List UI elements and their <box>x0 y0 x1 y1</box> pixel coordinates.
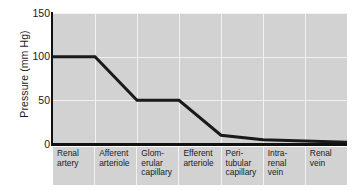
plot-area <box>53 13 347 144</box>
x-axis-category-label-line: vein <box>268 168 305 178</box>
y-tick-label: 100 <box>24 51 50 62</box>
x-axis-category-label-line: arteriole <box>99 159 136 169</box>
x-axis-category-cell: Efferentarteriole <box>179 147 221 185</box>
x-axis-category-cell: Afferentarteriole <box>95 147 137 185</box>
pressure-line <box>53 57 347 143</box>
x-axis-category-label-line: arteriole <box>183 159 220 169</box>
x-axis-category-cell: Intra-renalvein <box>264 147 306 185</box>
x-axis-category-label-line: vein <box>310 159 347 169</box>
x-axis-category-cell: Renalvein <box>306 147 347 185</box>
x-axis-category-cell: Peri-tubularcapillary <box>222 147 264 185</box>
pressure-profile-chart: Pressure (mm Hg) 150100500 RenalarteryAf… <box>0 0 358 195</box>
x-axis-category-label-line: capillary <box>226 168 263 178</box>
x-axis-category-labels: RenalarteryAfferentarterioleGlom-erularc… <box>53 147 347 185</box>
x-axis-category-cell: Renalartery <box>53 147 95 185</box>
data-series-line <box>53 13 347 144</box>
y-axis-tick-labels: 150100500 <box>22 0 50 195</box>
x-axis-category-cell: Glom-erularcapillary <box>137 147 179 185</box>
x-axis-category-label-line: artery <box>57 159 94 169</box>
x-axis-category-label-line: capillary <box>141 168 178 178</box>
x-axis-line <box>51 143 347 146</box>
y-tick-label: 50 <box>24 95 50 106</box>
y-tick-label: 150 <box>24 8 50 19</box>
y-tick-label: 0 <box>24 139 50 150</box>
y-axis-line <box>51 12 53 145</box>
